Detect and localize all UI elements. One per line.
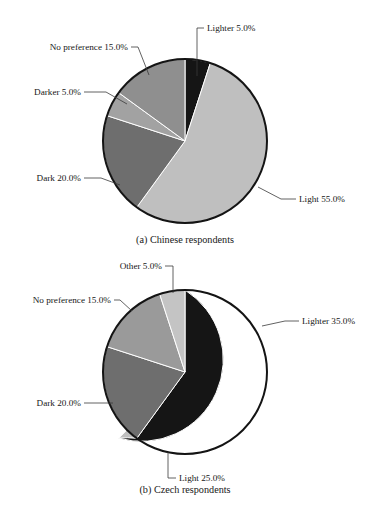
caption-chinese-respondents: (a) Chinese respondents: [136, 234, 234, 246]
leader-no-preference-b: [114, 300, 132, 311]
label-other-b: Other 5.0%: [120, 261, 163, 271]
label-light-b: Light 25.0%: [179, 473, 225, 483]
caption-czech-respondents: (b) Czech respondents: [139, 484, 230, 496]
pie-chart-figure: Lighter 5.0% Light 55.0% Dark 20.0% Dark…: [0, 0, 367, 515]
label-lighter-a: Lighter 5.0%: [207, 23, 256, 33]
label-lighter-b: Lighter 35.0%: [302, 316, 355, 326]
leader-light-a: [258, 187, 296, 199]
label-dark-a: Dark 20.0%: [37, 173, 82, 183]
leader-other-b: [165, 266, 173, 293]
chart-chinese-respondents: Lighter 5.0% Light 55.0% Dark 20.0% Dark…: [34, 23, 345, 246]
label-no-preference-a: No preference 15.0%: [50, 42, 129, 52]
label-darker-a: Darker 5.0%: [34, 87, 81, 97]
leader-lighter-b: [262, 321, 299, 326]
label-no-preference-b: No preference 15.0%: [33, 295, 112, 305]
label-light-a: Light 55.0%: [299, 194, 345, 204]
leader-light-b: [168, 452, 176, 478]
label-dark-b: Dark 20.0%: [37, 398, 82, 408]
chart-czech-respondents: Lighter 35.0% Light 25.0% Dark 20.0% No …: [33, 261, 356, 496]
